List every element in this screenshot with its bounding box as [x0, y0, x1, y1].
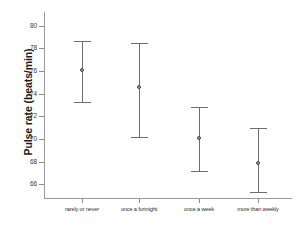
- y-axis-line: [44, 12, 45, 199]
- y-tick-label: 78: [7, 44, 37, 51]
- errorbar-cap-upper: [131, 43, 148, 44]
- errorbar-whisker: [139, 43, 140, 137]
- y-tick-label: 74: [7, 90, 37, 97]
- errorbar-cap-lower: [191, 171, 208, 172]
- errorbar-whisker: [258, 128, 259, 193]
- y-tick-mark: [39, 139, 44, 140]
- errorbar-cap-upper: [191, 107, 208, 108]
- y-tick-mark: [39, 94, 44, 95]
- y-tick-mark: [39, 116, 44, 117]
- data-point-marker: [197, 136, 201, 140]
- pulse-rate-errorbar-chart: Pulse rate (beats/min) 8078767472706866 …: [0, 0, 305, 227]
- y-tick-label: 76: [7, 67, 37, 74]
- y-tick-mark: [39, 48, 44, 49]
- y-tick-label: 70: [7, 135, 37, 142]
- y-tick-label: 72: [7, 112, 37, 119]
- x-tick-label-more-than-weekly: more than weekly: [218, 206, 298, 212]
- data-point-marker: [137, 85, 141, 89]
- x-tick-mark: [82, 199, 83, 203]
- errorbar-cap-upper: [250, 128, 267, 129]
- y-tick-label: 80: [7, 22, 37, 29]
- data-point-marker: [80, 68, 84, 72]
- x-tick-mark: [199, 199, 200, 203]
- errorbar-cap-lower: [74, 102, 91, 103]
- data-point-marker: [256, 161, 260, 165]
- y-tick-label: 68: [7, 158, 37, 165]
- errorbar-cap-upper: [74, 41, 91, 42]
- errorbar-cap-lower: [250, 192, 267, 193]
- y-tick-mark: [39, 184, 44, 185]
- y-tick-mark: [39, 162, 44, 163]
- y-tick-mark: [39, 26, 44, 27]
- y-tick-mark: [39, 71, 44, 72]
- y-tick-label: 66: [7, 180, 37, 187]
- errorbar-cap-lower: [131, 137, 148, 138]
- x-tick-mark: [139, 199, 140, 203]
- x-tick-mark: [258, 199, 259, 203]
